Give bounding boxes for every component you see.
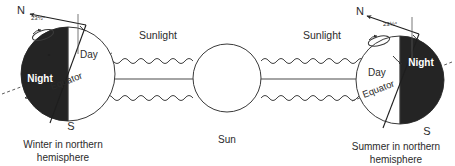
earth-left-caption-line1: Winter in northern [23, 139, 102, 150]
north-pole-label-right: N [356, 5, 364, 17]
seasons-diagram: Sun Sunlight Sunlight [0, 0, 455, 166]
south-pole-label-right: S [423, 125, 430, 137]
diagram-canvas: Sun Sunlight Sunlight [0, 0, 455, 166]
earth-right-summer: 23½° N S Day Night Equator Summer in nor… [352, 5, 452, 165]
sunlight-label-left: Sunlight [139, 29, 177, 41]
tilt-angle-label-right: 23½° [383, 21, 398, 27]
north-pole-label-left: N [17, 4, 25, 16]
rotation-direction-arrow-left [33, 30, 41, 34]
south-pole-label-left: S [67, 120, 74, 132]
earth-right-caption-line1: Summer in northern [352, 141, 440, 152]
earth-right-caption-line2: hemisphere [370, 154, 423, 165]
earth-left-caption-line2: hemisphere [37, 152, 90, 163]
sun-label: Sun [218, 134, 236, 145]
day-label-left: Day [80, 49, 98, 60]
sun-body [193, 44, 261, 112]
tilt-angle-label-left: 23½° [31, 15, 46, 21]
sunlight-label-right: Sunlight [303, 29, 341, 41]
latitude-marker-dot-left [48, 54, 50, 56]
day-label-right: Day [368, 67, 386, 78]
night-label-right: Night [408, 57, 434, 68]
earth-left-winter: 23½° N S Day Night Equator Winter in nor… [2, 4, 115, 163]
earth-right-night-region [400, 34, 446, 126]
